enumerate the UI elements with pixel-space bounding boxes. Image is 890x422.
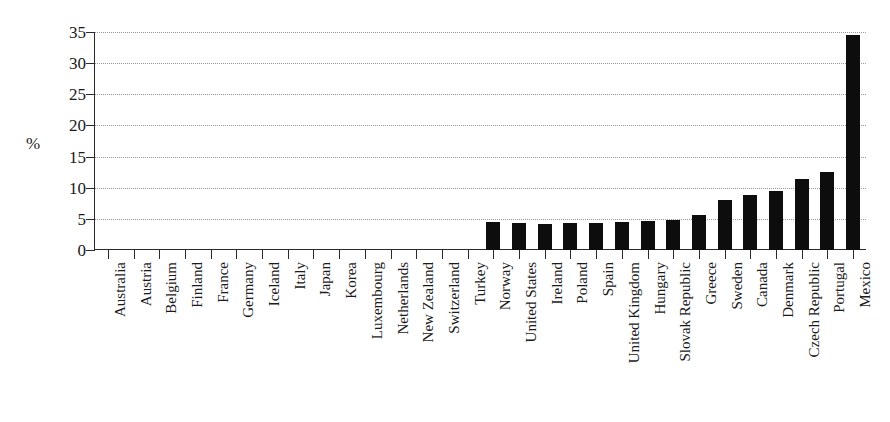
x-axis-tick-label-text: Slovak Republic [678, 262, 693, 362]
x-axis-tick-label-text: Greece [704, 262, 719, 304]
x-axis-tick-label: Australia [113, 262, 128, 317]
y-axis-title: % [26, 135, 40, 152]
y-axis-tick-mark [86, 125, 95, 126]
bar [769, 191, 783, 250]
x-axis-tick-label: Slovak Republic [678, 262, 693, 362]
bar [846, 35, 860, 250]
bar [538, 224, 552, 250]
x-axis-tick-label-text: United Kingdom [627, 262, 642, 363]
y-axis-tick-label: 10 [69, 179, 86, 196]
x-axis-tick-labels: AustraliaAustriaBelgiumFinlandFranceGerm… [95, 262, 866, 412]
x-axis-tick-label: Canada [755, 262, 770, 307]
x-axis-tick-mark [185, 250, 186, 259]
bar [820, 172, 834, 250]
x-axis-tick-label-text: Norway [498, 262, 513, 310]
x-axis-tick-label-text: Luxembourg [370, 262, 385, 339]
x-axis-tick-mark [725, 250, 726, 259]
x-axis-tick-label: Belgium [164, 262, 179, 314]
bar [641, 221, 655, 250]
x-axis-tick-label-text: Turkey [473, 262, 488, 305]
x-axis-tick-label: Italy [293, 262, 308, 290]
x-axis-tick-label: Poland [575, 262, 590, 304]
bar [486, 222, 500, 250]
x-axis-tick-label-text: Mexico [858, 262, 873, 308]
y-axis-tick-label: 25 [69, 86, 86, 103]
bar [589, 223, 603, 250]
x-axis-tick-label-text: New Zealand [421, 262, 436, 342]
x-axis-tick-mark [391, 250, 392, 259]
x-axis-tick-mark [236, 250, 237, 259]
y-axis-tick-label: 30 [69, 55, 86, 72]
x-axis-tick-mark [159, 250, 160, 259]
x-axis-tick-mark [211, 250, 212, 259]
x-axis-tick-mark [365, 250, 366, 259]
x-axis-tick-label-text: Italy [293, 262, 308, 290]
x-axis-tick-label: Japan [318, 262, 333, 296]
x-axis-tick-mark [108, 250, 109, 259]
x-axis-tick-label: France [216, 262, 231, 303]
x-axis-tick-label: Turkey [473, 262, 488, 305]
y-axis-tick-mark [86, 219, 95, 220]
x-axis-tick-mark [519, 250, 520, 259]
x-axis-tick-mark [827, 250, 828, 259]
x-axis-tick-mark [570, 250, 571, 259]
x-axis-tick-label-text: Korea [344, 262, 359, 299]
x-axis-tick-label-text: Austria [139, 262, 154, 306]
x-axis-tick-mark [596, 250, 597, 259]
x-axis-tick-label-text: Denmark [781, 262, 796, 318]
x-axis-tick-mark [622, 250, 623, 259]
y-axis-tick-label: 0 [78, 242, 87, 259]
x-axis-tick-mark [288, 250, 289, 259]
x-axis-tick-label-text: United States [524, 262, 539, 342]
x-axis-tick-mark [699, 250, 700, 259]
x-axis-tick-label: New Zealand [421, 262, 436, 342]
x-axis-tick-label-text: Japan [318, 262, 333, 296]
y-axis-tick-label: 15 [69, 148, 86, 165]
bar [692, 215, 706, 250]
x-axis-tick-label-text: Sweden [730, 262, 745, 310]
x-axis-tick-label: Switzerland [447, 262, 462, 334]
x-axis-tick-label-text: Netherlands [396, 262, 411, 334]
x-axis-tick-mark [673, 250, 674, 259]
y-axis-tick-label: 5 [78, 210, 87, 227]
y-axis-tick-labels: 05101520253035 [52, 32, 86, 250]
x-axis-tick-label-text: Belgium [164, 262, 179, 314]
x-axis-tick-label: Norway [498, 262, 513, 310]
x-axis-tick-label-text: Hungary [653, 262, 668, 315]
x-axis-tick-label: Iceland [267, 262, 282, 306]
bar [666, 220, 680, 250]
bar-chart: % 05101520253035 AustraliaAustriaBelgium… [0, 0, 890, 422]
x-axis-tick-label-text: Switzerland [447, 262, 462, 334]
y-axis-tick-mark [86, 32, 95, 33]
x-axis-tick-label-text: Ireland [550, 262, 565, 304]
x-axis-tick-label-text: Canada [755, 262, 770, 307]
x-axis-tick-label: Czech Republic [807, 262, 822, 357]
x-axis-tick-label: Ireland [550, 262, 565, 304]
x-axis-tick-label: Mexico [858, 262, 873, 308]
x-axis-tick-mark [776, 250, 777, 259]
x-axis-tick-mark [468, 250, 469, 259]
x-axis-tick-label: Germany [241, 262, 256, 318]
bar [718, 200, 732, 250]
bar [615, 222, 629, 250]
x-axis-tick-label: Spain [601, 262, 616, 296]
bar [512, 223, 526, 250]
y-axis-tick-mark [86, 157, 95, 158]
x-axis-tick-label-text: Portugal [832, 262, 847, 313]
x-axis-tick-label: United States [524, 262, 539, 342]
x-axis-tick-marks [95, 250, 866, 259]
y-axis-tick-mark [86, 188, 95, 189]
x-axis-tick-mark [134, 250, 135, 259]
x-axis-tick-label: United Kingdom [627, 262, 642, 363]
x-axis-tick-label-text: Finland [190, 262, 205, 308]
x-axis-tick-label: Greece [704, 262, 719, 304]
x-axis-tick-mark [313, 250, 314, 259]
x-axis-tick-label: Austria [139, 262, 154, 306]
x-axis-tick-label: Portugal [832, 262, 847, 313]
y-axis-tick-label: 35 [69, 24, 86, 41]
x-axis-tick-label-text: Iceland [267, 262, 282, 306]
x-axis-tick-label: Finland [190, 262, 205, 308]
x-axis-tick-label: Netherlands [396, 262, 411, 334]
x-axis-tick-label-text: Germany [241, 262, 256, 318]
x-axis-tick-label: Sweden [730, 262, 745, 310]
